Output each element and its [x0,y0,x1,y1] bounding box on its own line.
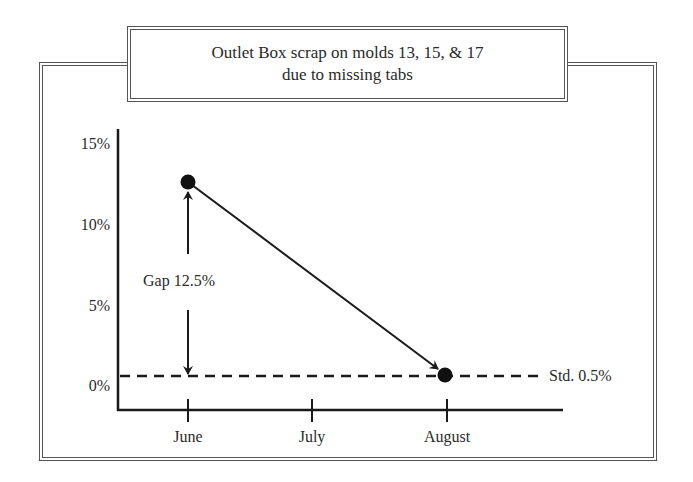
chart-title-box: Outlet Box scrap on molds 13, 15, & 17 d… [127,26,568,102]
y-tick-label-10: 10% [60,216,110,234]
x-tick-label-june: June [148,428,228,446]
data-point-august [438,368,453,383]
y-tick-label-5: 5% [60,297,110,315]
data-point-june [181,175,196,190]
gap-label: Gap 12.5% [143,272,215,290]
chart-title-line-1: Outlet Box scrap on molds 13, 15, & 17 [212,42,484,64]
chart-title-line-2: due to missing tabs [282,64,413,86]
standard-label: Std. 0.5% [549,367,612,385]
x-tick-label-july: July [272,428,352,446]
trend-line [188,182,438,369]
x-tick-label-august: August [407,428,487,446]
y-tick-label-0: 0% [60,377,110,395]
y-tick-label-15: 15% [60,135,110,153]
